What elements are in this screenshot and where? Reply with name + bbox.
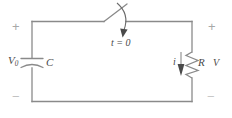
circuit-diagram: V0 C t = 0 i R V + + − − bbox=[0, 0, 232, 118]
polarity-minus-bottom-right: − bbox=[207, 90, 215, 103]
polarity-plus-top-right: + bbox=[208, 20, 216, 33]
current-label: i bbox=[173, 57, 176, 67]
polarity-plus-top-left: + bbox=[12, 20, 20, 33]
switch-action-arc bbox=[117, 3, 126, 30]
current-arrowhead bbox=[178, 64, 185, 76]
resistor-symbol bbox=[186, 52, 198, 78]
source-voltage-label: V0 bbox=[8, 55, 18, 68]
switch-action-arrow bbox=[117, 3, 128, 38]
capacitor-plate-bottom-curved bbox=[21, 65, 43, 68]
switch-blade bbox=[104, 4, 127, 22]
polarity-minus-bottom-left: − bbox=[12, 90, 20, 103]
capacitor-label: C bbox=[46, 57, 53, 68]
resistor-zigzag bbox=[186, 52, 198, 78]
resistor-label: R bbox=[198, 57, 205, 68]
source-voltage-subscript: 0 bbox=[15, 60, 19, 68]
current-arrow bbox=[178, 52, 185, 76]
resistor-voltage-label: V bbox=[213, 58, 219, 68]
capacitor-symbol bbox=[21, 59, 43, 68]
source-voltage-symbol: V bbox=[8, 54, 15, 66]
circuit-wires bbox=[32, 22, 192, 102]
switch-time-label: t = 0 bbox=[111, 38, 131, 48]
switch-symbol bbox=[104, 4, 127, 22]
